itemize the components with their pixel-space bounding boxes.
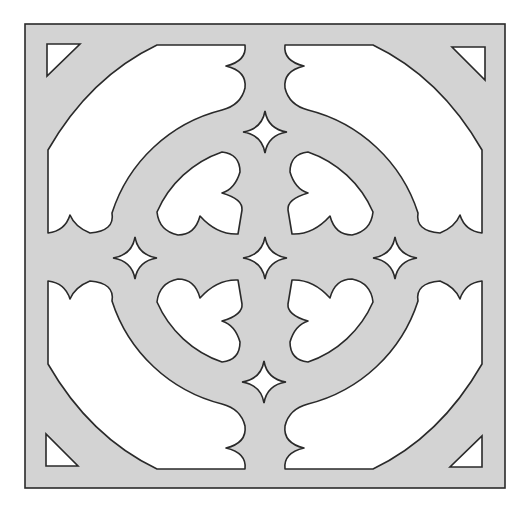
stencil-pattern	[0, 0, 528, 515]
